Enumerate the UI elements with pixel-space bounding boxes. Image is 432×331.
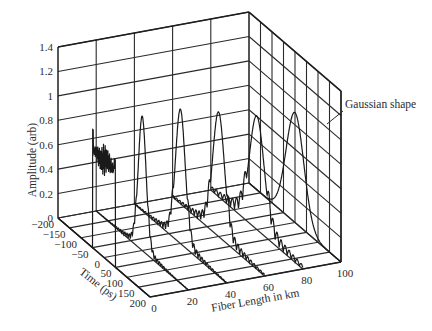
waterfall-chart: 00.20.40.60.811.21.4−200−150−100−5005010… [0, 0, 432, 331]
y-tick-label: 200 [130, 297, 147, 309]
x-tick-label: 80 [301, 274, 313, 286]
x-axis-label: Fiber Length in km [210, 286, 300, 314]
x-tick-label: 100 [337, 267, 354, 279]
x-tick-label: 0 [151, 302, 157, 314]
z-tick-label: 0.8 [39, 114, 53, 126]
annotation-label: Gaussian shape [345, 98, 416, 111]
z-tick-label: 1.2 [39, 65, 53, 77]
x-tick-label: 20 [187, 295, 199, 307]
z-tick-label: 0.2 [39, 188, 53, 200]
z-tick-label: 0.4 [39, 163, 53, 175]
y-tick-label: −50 [71, 248, 89, 260]
z-axis-label: Amplitude (arb) [26, 123, 39, 198]
z-tick-label: 1 [48, 90, 54, 102]
z-tick-label: 1.4 [39, 41, 53, 53]
z-tick-label: 0.6 [39, 139, 53, 151]
